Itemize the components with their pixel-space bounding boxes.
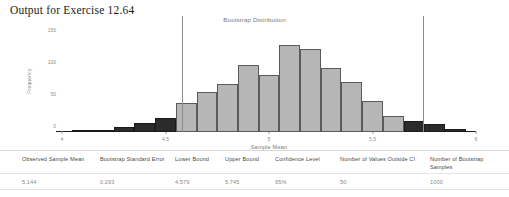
histogram-bar xyxy=(341,82,362,132)
table-data-cell: 4.579 xyxy=(175,174,223,186)
table-row: 5.1440.2934.5795.74595%501000 xyxy=(0,174,509,190)
histogram-bar xyxy=(259,75,280,132)
histogram-bar xyxy=(404,121,425,132)
y-axis-label: Frequency xyxy=(26,68,32,93)
table-header-cell: Upper Bound xyxy=(225,151,273,163)
histogram-bar xyxy=(197,92,218,132)
x-axis-tick: 6 xyxy=(475,136,478,142)
y-axis-tick: 50 xyxy=(50,91,56,97)
x-axis-tickmark xyxy=(62,131,63,134)
histogram-bar xyxy=(300,49,321,132)
x-axis-tickmark xyxy=(476,131,477,134)
lower-bound-line xyxy=(182,16,183,132)
table-data-cell: 1000 xyxy=(430,174,505,186)
histogram-bar xyxy=(114,127,135,132)
histogram-bar xyxy=(93,130,114,132)
x-axis-tick: 5.5 xyxy=(369,136,376,142)
table-header-cell: Observed Sample Mean xyxy=(22,151,97,163)
chart-title: Bootstrap Distribution xyxy=(0,16,509,23)
table-data-cell: 0.293 xyxy=(100,174,172,186)
table-header-cell: Number of Values Outside CI xyxy=(340,151,428,163)
output-page: Output for Exercise 12.64 Bootstrap Dist… xyxy=(0,0,509,197)
histogram-bar xyxy=(155,118,176,132)
bootstrap-distribution-chart: Bootstrap Distribution Frequency Sample … xyxy=(0,14,509,140)
table-header-row: Observed Sample MeanBootstrap Standard E… xyxy=(0,150,509,174)
summary-table: Observed Sample MeanBootstrap Standard E… xyxy=(0,150,509,190)
table-header-cell: Number of Bootstrap Samples xyxy=(430,151,505,172)
x-axis-tick: 4 xyxy=(61,136,64,142)
upper-bound-line xyxy=(423,16,424,132)
histogram-bar xyxy=(383,116,404,132)
x-axis-tick: 5 xyxy=(268,136,271,142)
chart-plot-area: Frequency Sample Mean 05010015044.555.56 xyxy=(62,30,476,132)
table-data-cell: 50 xyxy=(340,174,428,186)
table-data-cell: 95% xyxy=(275,174,337,186)
table-header-cell: Confidence Level xyxy=(275,151,337,163)
histogram-bar xyxy=(176,103,197,132)
histogram-bar xyxy=(362,101,383,132)
y-axis-tick: 0 xyxy=(53,123,56,129)
x-axis-tick: 4.5 xyxy=(162,136,169,142)
histogram-bar xyxy=(445,129,466,132)
histogram-bar xyxy=(134,123,155,132)
y-axis-tick: 100 xyxy=(48,59,56,65)
table-data-cell: 5.745 xyxy=(225,174,273,186)
y-axis-tick: 150 xyxy=(48,27,56,33)
histogram-bar xyxy=(72,130,93,132)
histogram-bar xyxy=(217,84,238,132)
table-header-cell: Lower Bound xyxy=(175,151,223,163)
table-data-cell: 5.144 xyxy=(22,174,97,186)
histogram-bar xyxy=(424,124,445,132)
histogram-bar xyxy=(279,45,300,132)
table-header-cell: Bootstrap Standard Error xyxy=(100,151,172,163)
histogram-bar xyxy=(238,65,259,132)
histogram-bar xyxy=(321,68,342,132)
